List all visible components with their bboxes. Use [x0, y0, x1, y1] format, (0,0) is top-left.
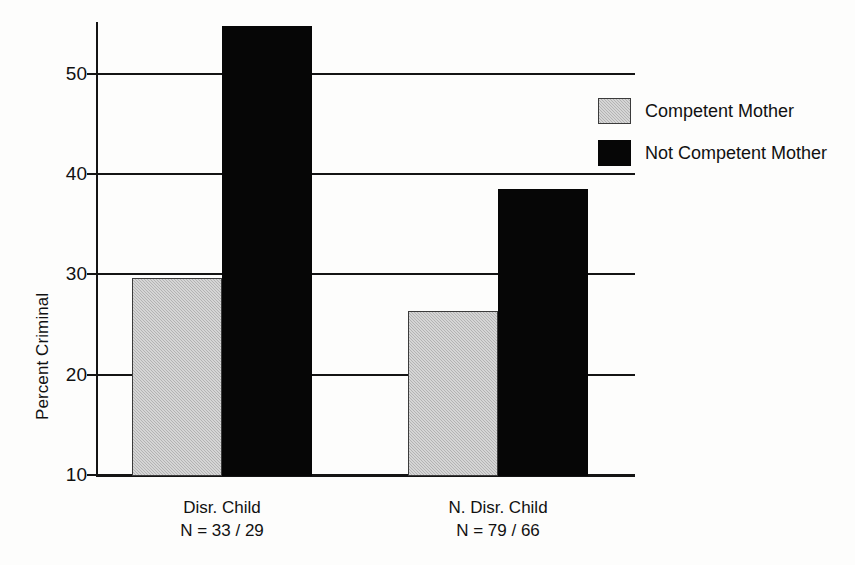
- legend-swatch-notcompetent: [598, 140, 631, 166]
- legend-swatch-competent: [598, 98, 631, 124]
- y-tick-mark-50: [87, 73, 96, 75]
- y-tick-40: 40: [0, 164, 87, 183]
- category-name-group2: N. Disr. Child: [358, 496, 638, 519]
- y-tick-label-50: 50: [41, 64, 87, 83]
- y-tick-30: 30: [0, 264, 87, 283]
- y-tick-mark-30: [87, 273, 96, 275]
- y-tick-50: 50: [0, 64, 87, 83]
- bar-chart-figure: Percent Criminal 5040302010 Disr. ChildN…: [0, 0, 855, 565]
- bar-notcompetent-group1: [222, 26, 312, 476]
- category-name-group1: Disr. Child: [82, 496, 362, 519]
- y-tick-label-40: 40: [41, 164, 87, 183]
- gridline-50: [96, 73, 635, 75]
- category-sample-size-group2: N = 79 / 66: [358, 519, 638, 542]
- legend-label-competent: Competent Mother: [645, 102, 794, 120]
- category-label-group2: N. Disr. ChildN = 79 / 66: [358, 496, 638, 542]
- y-tick-mark-20: [87, 374, 96, 376]
- legend-item-competent: Competent Mother: [598, 93, 848, 129]
- y-tick-mark-40: [87, 173, 96, 175]
- y-tick-label-30: 30: [41, 264, 87, 283]
- y-axis-spine: [96, 22, 98, 476]
- legend-item-notcompetent: Not Competent Mother: [598, 135, 848, 171]
- gridline-40: [96, 173, 635, 175]
- category-label-group1: Disr. ChildN = 33 / 29: [82, 496, 362, 542]
- bar-notcompetent-group2: [498, 189, 588, 476]
- chart-legend: Competent MotherNot Competent Mother: [598, 93, 848, 177]
- category-sample-size-group1: N = 33 / 29: [82, 519, 362, 542]
- bar-competent-group2: [408, 311, 498, 476]
- y-tick-10: 10: [0, 465, 87, 484]
- bar-competent-group1: [132, 278, 222, 476]
- y-tick-20: 20: [0, 365, 87, 384]
- y-tick-mark-10: [87, 474, 96, 476]
- legend-label-notcompetent: Not Competent Mother: [645, 144, 827, 162]
- y-tick-label-20: 20: [41, 365, 87, 384]
- y-tick-label-10: 10: [41, 465, 87, 484]
